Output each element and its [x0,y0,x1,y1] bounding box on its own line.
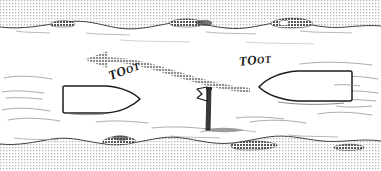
left-boat [63,86,140,115]
illustration-canvas: TOOT TOOT [0,0,381,171]
bottom-bank [0,135,381,171]
marker-post [197,87,256,132]
marker-vane-icon [197,87,207,101]
toot-right-lead: TO [238,52,258,69]
arrowhead-icon [84,51,108,68]
top-bank [0,0,381,44]
scene-drawing [0,0,381,171]
toot-right-trail: OT [256,53,272,66]
